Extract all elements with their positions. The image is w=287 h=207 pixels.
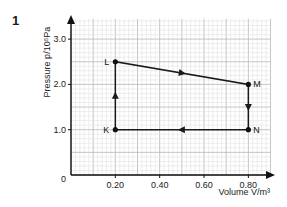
x-tick-label: 0.60 <box>195 180 213 190</box>
origin-label: 0 <box>61 174 66 184</box>
y-axis-label: Pressure p/10⁵Pa <box>42 27 52 98</box>
x-axis-label: Volume V/m³ <box>218 187 270 197</box>
point-label: N <box>253 125 259 135</box>
point-m <box>246 82 251 87</box>
y-tick-label: 2.0 <box>53 79 66 89</box>
point-n <box>246 127 251 132</box>
point-label: L <box>104 57 109 67</box>
point-k <box>113 127 118 132</box>
pv-diagram: 0.200.400.600.801.02.03.0 KLMN Volume V/… <box>0 0 287 207</box>
direction-arrow-icon <box>245 104 252 111</box>
point-l <box>113 59 118 64</box>
direction-arrow-icon <box>178 126 185 133</box>
x-tick-label: 0.40 <box>151 180 169 190</box>
point-label: K <box>103 125 109 135</box>
y-tick-label: 1.0 <box>53 125 66 135</box>
grid <box>71 19 271 175</box>
x-tick-label: 0.20 <box>107 180 125 190</box>
point-label: M <box>253 79 260 89</box>
y-tick-label: 3.0 <box>53 34 66 44</box>
direction-arrow-icon <box>112 92 119 99</box>
